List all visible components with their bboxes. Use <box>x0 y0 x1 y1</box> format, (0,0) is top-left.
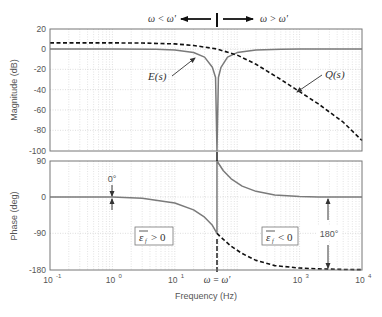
deg180-label: 180° <box>320 229 339 239</box>
x-tick-exponent: 1 <box>181 273 185 279</box>
magnitude-tick-label: -80 <box>34 125 47 135</box>
eps-neg-text: < 0 <box>278 231 293 243</box>
x-tick-exponent: 4 <box>368 273 372 279</box>
zero-deg-label: 0° <box>108 174 117 184</box>
eps-symbol: ε <box>266 231 271 243</box>
x-tick-label: 10 <box>43 275 53 285</box>
phase-tick-label: 0 <box>41 192 46 202</box>
x-tick-label: 10 <box>293 275 303 285</box>
magnitude-tick-label: 0 <box>41 44 46 54</box>
phase-y-ticks: 900-90-180 <box>29 156 46 275</box>
x-axis-label: Frequency (Hz) <box>175 291 237 301</box>
eps-pos-text: > 0 <box>151 231 166 243</box>
x-tick-label: 10 <box>355 275 365 285</box>
phase-y-label: Phase (deg) <box>9 191 19 240</box>
E-curve-label: E(s) <box>147 70 167 83</box>
x-tick-label: 10 <box>168 275 178 285</box>
omega-less-label: ω < ω' <box>148 13 177 24</box>
phase-plot-area <box>50 161 362 270</box>
phase-tick-label: -180 <box>29 265 46 275</box>
eps-positive-box: ε f > 0 <box>135 227 173 245</box>
magnitude-plot: 200-20-40-60-80-100 Magnitude (dB) <box>9 24 362 156</box>
magnitude-tick-label: -20 <box>34 64 47 74</box>
omega-greater-label: ω > ω' <box>260 13 289 24</box>
magnitude-tick-label: -100 <box>29 146 46 156</box>
phase-tick-label: -90 <box>34 228 47 238</box>
magnitude-tick-label: 20 <box>37 24 47 34</box>
Q-curve-label: Q(s) <box>325 68 345 81</box>
x-tick-exponent: -1 <box>56 273 62 279</box>
magnitude-tick-label: -60 <box>34 105 47 115</box>
bode-figure: 200-20-40-60-80-100 Magnitude (dB) 900-9… <box>0 0 382 317</box>
magnitude-tick-label: -40 <box>34 85 47 95</box>
magnitude-y-label: Magnitude (dB) <box>9 59 19 121</box>
x-tick-exponent: 3 <box>306 273 310 279</box>
x-tick-label: 10 <box>106 275 116 285</box>
magnitude-y-ticks: 200-20-40-60-80-100 <box>29 24 46 156</box>
direction-annotations: ω < ω' ω > ω' <box>148 13 289 27</box>
eps-negative-box: ε f < 0 <box>262 227 298 245</box>
eps-symbol: ε <box>139 231 144 243</box>
phase-plot: 900-90-180 Phase (deg) <box>9 156 362 275</box>
x-tick-exponent: 0 <box>118 273 122 279</box>
omega-equal-tick-label: ω = ω' <box>204 275 232 285</box>
phase-tick-label: 90 <box>37 156 47 166</box>
